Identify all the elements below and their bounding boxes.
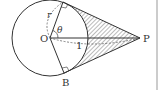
radius-ob	[50, 38, 64, 73]
label-r: r	[47, 10, 52, 20]
label-theta: θ	[57, 25, 63, 35]
label-b: B	[62, 77, 69, 88]
label-length: 1	[76, 40, 82, 51]
label-p: P	[143, 33, 150, 44]
label-o: O	[40, 33, 48, 44]
tangent-diagram: O B P r θ 1	[0, 0, 159, 90]
